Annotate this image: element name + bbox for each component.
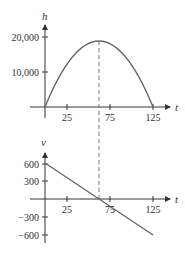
v-axis-label: v xyxy=(41,136,46,148)
label-75-bottom: 75 xyxy=(105,204,115,215)
label-10000: 10,000 xyxy=(12,67,40,78)
label-600: 600 xyxy=(24,159,39,170)
label-25-bottom: 25 xyxy=(62,204,72,215)
t-axis-label-bottom: t xyxy=(175,193,179,205)
label-125-bottom: 125 xyxy=(146,204,161,215)
label-300: 300 xyxy=(24,176,39,187)
height-chart: h t 20,000 10,000 25 75 125 xyxy=(12,10,180,123)
chart-canvas: h t 20,000 10,000 25 75 125 v t 600 300 … xyxy=(0,0,185,255)
label-neg600: −600 xyxy=(18,230,39,241)
label-25-top: 25 xyxy=(62,112,72,123)
label-neg300: −300 xyxy=(18,212,39,223)
label-75-top: 75 xyxy=(105,112,115,123)
h-axis-label: h xyxy=(42,10,48,22)
label-20000: 20,000 xyxy=(12,32,40,43)
label-125-top: 125 xyxy=(146,112,161,123)
t-axis-label-top: t xyxy=(175,101,179,113)
